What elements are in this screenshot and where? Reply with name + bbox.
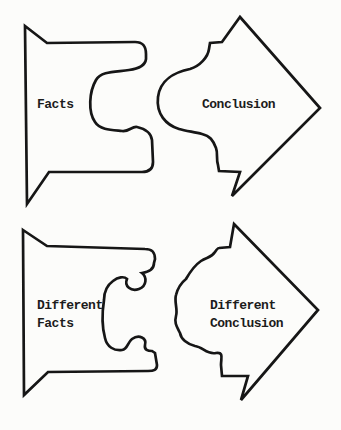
facts-label: Facts bbox=[37, 97, 74, 112]
different-facts-label-line2: Facts bbox=[37, 316, 74, 331]
different-conclusion-label-line1: Different bbox=[210, 298, 276, 313]
facts-piece-outline bbox=[25, 26, 153, 204]
conclusion-label: Conclusion bbox=[202, 97, 276, 112]
conclusion-piece-group: Conclusion bbox=[158, 17, 320, 196]
different-facts-piece-group: Different Facts bbox=[23, 230, 157, 395]
puzzle-arrow-diagram: Facts Conclusion Different Facts Differe… bbox=[0, 0, 341, 430]
facts-piece-group: Facts bbox=[25, 26, 153, 204]
different-conclusion-piece-group: Different Conclusion bbox=[175, 224, 318, 400]
figure-canvas: Facts Conclusion Different Facts Differe… bbox=[0, 0, 341, 430]
different-facts-label-line1: Different bbox=[37, 298, 103, 313]
different-conclusion-label-line2: Conclusion bbox=[210, 316, 284, 331]
